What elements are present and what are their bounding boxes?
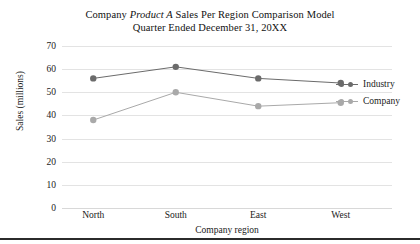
legend-label: Industry [363, 76, 395, 93]
legend-dot-icon [348, 82, 353, 87]
chart-legend: IndustryCompany [336, 76, 420, 110]
legend-dot-icon [348, 99, 353, 104]
series-line-industry [93, 67, 341, 83]
series-line-company [93, 92, 341, 120]
series-layer [0, 0, 420, 244]
data-point-company-east [255, 103, 261, 109]
data-point-industry-east [255, 75, 261, 81]
data-point-company-south [173, 89, 179, 95]
legend-item-company[interactable]: Company [336, 93, 420, 110]
legend-marker-icon [336, 84, 358, 85]
legend-dot-icon [339, 99, 344, 104]
data-point-industry-south [173, 64, 179, 70]
legend-dot-icon [339, 82, 344, 87]
chart-figure: Company Product A Sales Per Region Compa… [0, 0, 420, 244]
data-point-company-north [90, 117, 96, 123]
bottom-divider [0, 238, 420, 240]
data-point-industry-north [90, 75, 96, 81]
legend-item-industry[interactable]: Industry [336, 76, 420, 93]
legend-label: Company [363, 93, 400, 110]
legend-marker-icon [336, 101, 358, 102]
